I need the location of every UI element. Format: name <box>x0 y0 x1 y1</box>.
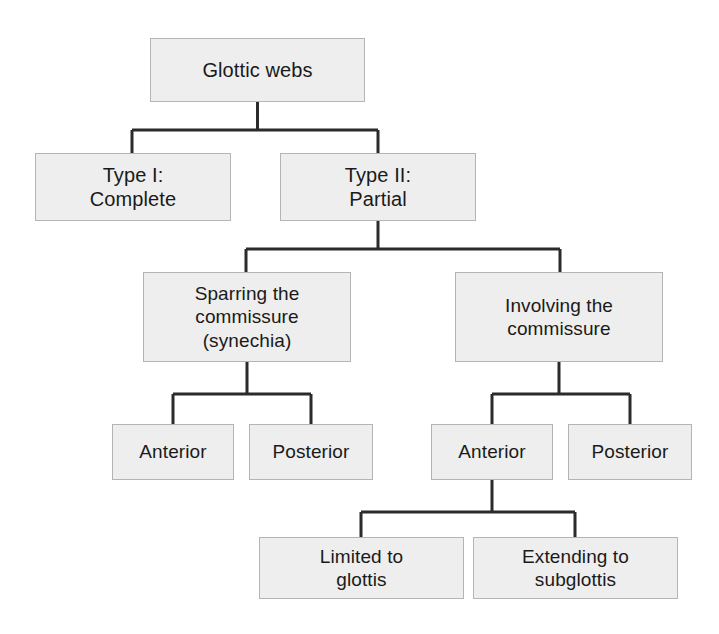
node-glottic-webs: Glottic webs <box>150 38 365 102</box>
node-type-i-complete-label: Type I: Complete <box>86 163 180 212</box>
node-anterior-involving: Anterior <box>431 424 553 480</box>
node-posterior-involving-label: Posterior <box>588 440 673 463</box>
node-anterior-sparring: Anterior <box>112 424 234 480</box>
node-involving-commissure-label: Involving the commissure <box>501 294 617 340</box>
node-type-i-complete: Type I: Complete <box>35 153 231 221</box>
node-type-ii-partial: Type II: Partial <box>280 153 476 221</box>
node-sparring-commissure: Sparring the commissure (synechia) <box>143 272 351 362</box>
node-posterior-involving: Posterior <box>568 424 692 480</box>
glottic-webs-flowchart: Glottic webs Type I: Complete Type II: P… <box>0 0 719 634</box>
node-sparring-commissure-label: Sparring the commissure (synechia) <box>191 282 304 352</box>
node-extending-to-subglottis: Extending to subglottis <box>473 537 678 599</box>
node-posterior-sparring: Posterior <box>249 424 373 480</box>
node-anterior-sparring-label: Anterior <box>135 440 210 463</box>
node-anterior-involving-label: Anterior <box>454 440 529 463</box>
node-involving-commissure: Involving the commissure <box>455 272 663 362</box>
node-extending-to-subglottis-label: Extending to subglottis <box>518 545 633 591</box>
node-posterior-sparring-label: Posterior <box>269 440 354 463</box>
node-limited-to-glottis-label: Limited to glottis <box>316 545 407 591</box>
node-glottic-webs-label: Glottic webs <box>198 58 316 82</box>
node-limited-to-glottis: Limited to glottis <box>259 537 464 599</box>
node-type-ii-partial-label: Type II: Partial <box>341 163 415 212</box>
